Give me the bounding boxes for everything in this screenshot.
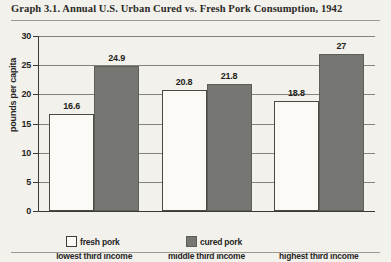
legend-label: fresh pork (80, 237, 120, 247)
y-axis-tick-label: 30 (5, 31, 31, 41)
y-axis-tick-label: 25 (5, 60, 31, 70)
bar-fresh-pork-2 (274, 101, 319, 211)
bar-value-label: 21.8 (221, 71, 238, 81)
plot-area: 05101520253016.624.9lowest third income2… (38, 36, 375, 211)
cured-pork-swatch (186, 236, 197, 247)
y-axis-tick-label: 10 (5, 148, 31, 158)
bar-value-label: 24.9 (108, 53, 125, 63)
y-axis-tick-label: 20 (5, 89, 31, 99)
bar-fresh-pork-0 (49, 114, 94, 211)
bar-value-label: 18.8 (288, 88, 305, 98)
gridline (38, 36, 375, 37)
legend-item-cured-pork: cured pork (186, 236, 242, 247)
chart-figure: Graph 3.1. Annual U.S. Urban Cured vs. F… (0, 0, 391, 262)
legend-label: cured pork (200, 237, 242, 247)
bar-value-label: 20.8 (176, 77, 193, 87)
legend-item-fresh-pork: fresh pork (66, 236, 120, 247)
fresh-pork-swatch (66, 236, 77, 247)
footer-divider (11, 252, 380, 253)
x-axis-line (38, 211, 375, 212)
y-axis-tick-label: 5 (5, 177, 31, 187)
y-axis-line (38, 36, 39, 212)
chart-title: Graph 3.1. Annual U.S. Urban Cured vs. F… (11, 3, 342, 14)
bar-cured-pork-0 (94, 66, 139, 211)
bar-cured-pork-1 (207, 84, 252, 211)
title-divider (11, 20, 380, 21)
bar-cured-pork-2 (319, 54, 364, 212)
bar-value-label: 27 (337, 41, 347, 51)
bar-value-label: 16.6 (63, 101, 80, 111)
bar-fresh-pork-1 (162, 90, 207, 211)
y-axis-tick-label: 0 (5, 206, 31, 216)
y-axis-tick-label: 15 (5, 119, 31, 129)
